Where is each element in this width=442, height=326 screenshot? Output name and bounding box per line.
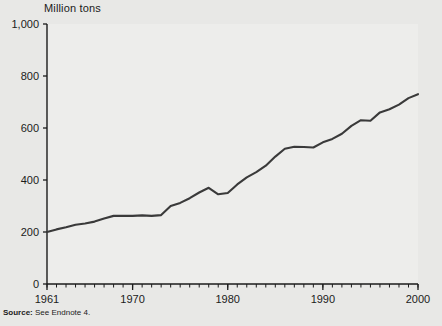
svg-text:0: 0 [33,278,39,290]
svg-text:1980: 1980 [216,293,240,305]
svg-text:800: 800 [21,70,39,82]
x-axis-labels: 19611970198019902000 [35,293,430,305]
svg-text:2000: 2000 [406,293,430,305]
plot-area: 02004006008001,000 19611970198019902000 [0,0,442,326]
source-label: Source: [3,308,33,317]
source-note: Source: See Endnote 4. [3,308,90,317]
x-axis-major-ticks [47,284,418,290]
plot-background [47,24,418,284]
svg-text:1990: 1990 [311,293,335,305]
svg-text:200: 200 [21,226,39,238]
svg-text:600: 600 [21,122,39,134]
source-text: See Endnote 4. [35,308,90,317]
svg-text:1,000: 1,000 [11,18,39,30]
line-chart-svg: 02004006008001,000 19611970198019902000 [0,0,442,326]
svg-text:400: 400 [21,174,39,186]
svg-text:1961: 1961 [35,293,59,305]
figure-root: Million tons 02004006008001,000 19611970… [0,0,442,326]
svg-text:1970: 1970 [120,293,144,305]
y-axis-labels: 02004006008001,000 [11,18,39,290]
